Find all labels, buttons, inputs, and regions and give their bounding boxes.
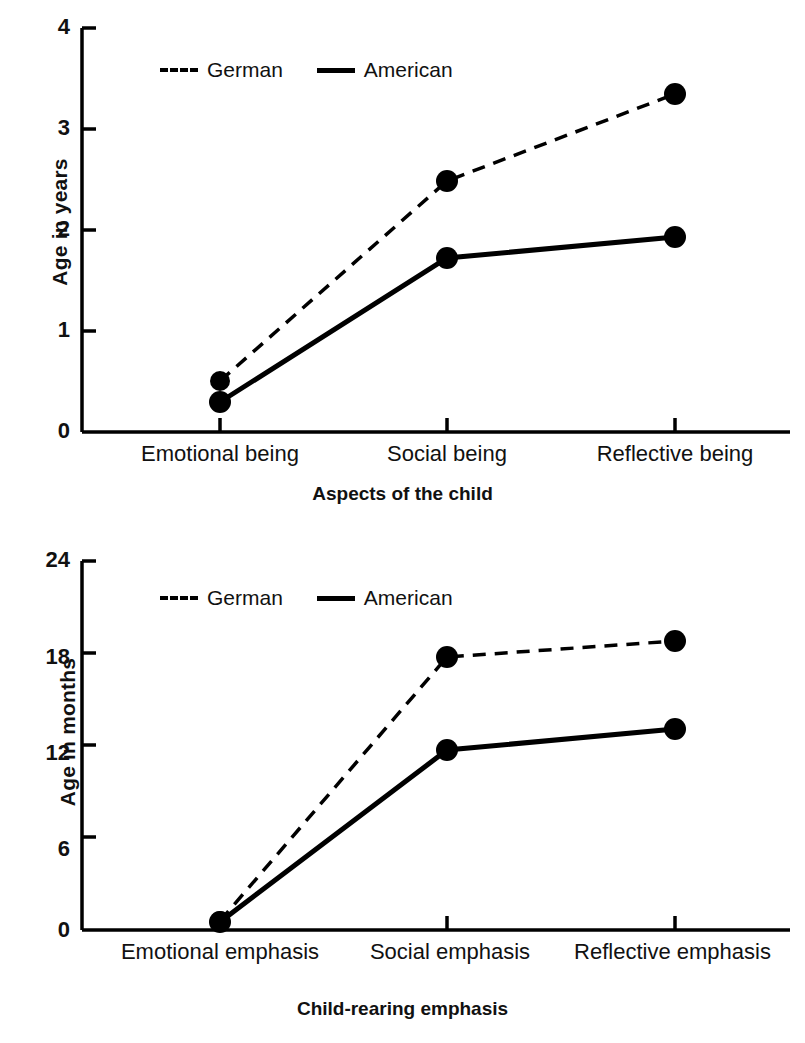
solid-line-swatch-icon <box>317 68 355 73</box>
legend-2: German American <box>160 586 453 610</box>
dashed-line-swatch-icon <box>160 68 198 72</box>
plot-area-1: Age in years 4 3 2 1 0 <box>0 0 805 520</box>
x-category-label: Reflective emphasis <box>540 939 805 965</box>
x-axis-title-1: Aspects of the child <box>0 483 805 505</box>
series-german-2 <box>210 630 686 931</box>
legend-item-german[interactable]: German <box>160 58 283 82</box>
legend-label: German <box>207 586 283 610</box>
legend-label: American <box>364 58 453 82</box>
x-category-label: Social being <box>337 441 557 467</box>
legend-label: American <box>364 586 453 610</box>
legend-label: German <box>207 58 283 82</box>
x-category-label: Social emphasis <box>330 939 570 965</box>
chart-age-in-years: Age in years 4 3 2 1 0 <box>0 0 805 520</box>
solid-line-swatch-icon <box>317 596 355 601</box>
dashed-line-swatch-icon <box>160 596 198 600</box>
series-american-1 <box>209 226 686 413</box>
x-category-label: Emotional emphasis <box>75 939 365 965</box>
x-category-label: Emotional being <box>90 441 350 467</box>
x-axis-title-2: Child-rearing emphasis <box>0 998 805 1020</box>
legend-item-german[interactable]: German <box>160 586 283 610</box>
legend-item-american[interactable]: American <box>317 586 453 610</box>
x-category-label: Reflective being <box>555 441 795 467</box>
chart-age-in-months: Age in months 24 18 12 6 0 <box>0 520 805 1043</box>
series-american-2 <box>209 718 686 933</box>
plot-area-2: Age in months 24 18 12 6 0 <box>0 520 805 1043</box>
axes-2 <box>82 561 790 930</box>
series-german-1 <box>210 83 686 391</box>
legend-item-american[interactable]: American <box>317 58 453 82</box>
legend-1: German American <box>160 58 453 82</box>
